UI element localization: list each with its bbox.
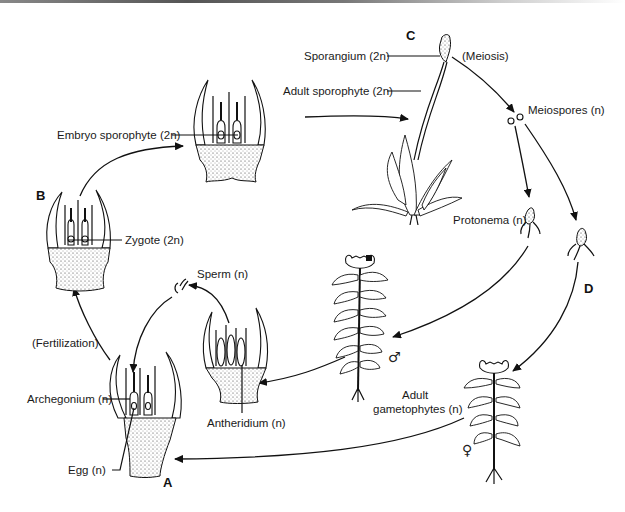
arrow-sperm-to-archegonium xyxy=(133,297,172,372)
sporangium-label: Sporangium (2n) xyxy=(304,50,390,62)
adult-gametophytes-label-line1: Adult xyxy=(402,389,429,401)
arrow-protonema-to-female-gametophyte xyxy=(513,262,578,371)
arrow-meiospores-to-protonema-2 xyxy=(525,124,576,220)
sperm-illustration xyxy=(175,279,188,293)
adult-gametophytes-label-line2: gametophytes (n) xyxy=(373,403,463,415)
meiospores-illustration xyxy=(508,114,523,124)
arrow-protonema-to-male-gametophyte xyxy=(393,246,528,337)
protonema-illustration-2 xyxy=(568,228,594,260)
zygote-label: Zygote (2n) xyxy=(125,234,184,246)
adult-sporophyte-label: Adult sporophyte (2n) xyxy=(283,85,393,97)
protonema-label: Protonema (n) xyxy=(453,214,527,226)
embryo-sporophyte-archegonium xyxy=(194,80,265,182)
moss-life-cycle-diagram: Zygote (2n) B Embryo sporophyte (2n) Spo… xyxy=(0,0,625,512)
stage-letter-a: A xyxy=(163,475,173,490)
sperm-label: Sperm (n) xyxy=(197,268,248,280)
arrow-zygote-to-embryo xyxy=(80,146,183,196)
stage-letter-c: C xyxy=(406,28,416,43)
embryo-sporophyte-label: Embryo sporophyte (2n) xyxy=(57,129,181,141)
female-gametophyte xyxy=(464,361,520,484)
egg-label: Egg (n) xyxy=(68,464,106,476)
fertilization-label: (Fertilization) xyxy=(32,337,99,349)
stage-c-adult-sporophyte xyxy=(352,35,462,225)
stage-letter-b: B xyxy=(36,188,45,203)
arrow-meiospores-to-protonema xyxy=(515,126,529,197)
stage-a-archegonia xyxy=(110,352,181,478)
meiospores-label: Meiospores (n) xyxy=(528,104,605,116)
arrow-male-to-antheridium xyxy=(259,357,345,383)
archegonium-label: Archegonium (n) xyxy=(27,393,112,405)
arrow-meiosis-to-meiospores xyxy=(452,57,514,112)
arrow-embryo-to-adult-sporophyte xyxy=(305,116,408,119)
arrow-fertilization-to-zygote xyxy=(74,288,110,360)
male-gametophyte xyxy=(332,255,388,402)
male-symbol: ♂ xyxy=(388,349,401,365)
antheridium-organ xyxy=(203,308,267,404)
stage-letter-d: D xyxy=(584,281,593,296)
antheridium-label: Antheridium (n) xyxy=(207,417,286,429)
female-symbol: ♀ xyxy=(462,442,472,458)
meiosis-label: (Meiosis) xyxy=(462,50,509,62)
